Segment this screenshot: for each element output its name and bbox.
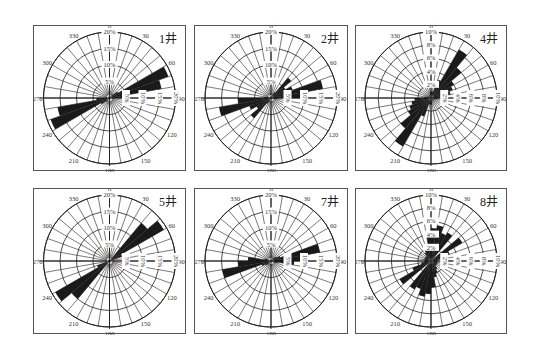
panel-title: 7井 xyxy=(321,192,339,210)
angle-label: 270 xyxy=(195,95,204,102)
radial-tick-label: 20% xyxy=(265,191,278,198)
radial-tick-label: 6% xyxy=(427,54,436,61)
angle-label: 240 xyxy=(42,131,52,138)
angle-label: 60 xyxy=(330,222,337,229)
angle-label: 240 xyxy=(364,294,374,301)
angle-label: 60 xyxy=(490,222,497,229)
angle-label: 300 xyxy=(204,222,214,229)
radial-tick-label: 20% xyxy=(173,255,180,268)
angle-label: 300 xyxy=(42,222,52,229)
radial-tick-label: 10% xyxy=(302,255,309,268)
angle-label: 330 xyxy=(69,195,79,202)
radial-tick-label: 20% xyxy=(335,255,342,268)
angle-label: 270 xyxy=(195,258,204,265)
panel-title: 4井 xyxy=(480,29,498,47)
radial-tick-label: 20% xyxy=(104,191,117,198)
radial-tick-label: 5% xyxy=(124,94,131,103)
angle-label: 30 xyxy=(142,195,149,202)
radial-tick-label: 10% xyxy=(425,191,438,198)
angle-label: 270 xyxy=(34,258,42,265)
angle-label: 150 xyxy=(141,320,151,327)
angle-label: 120 xyxy=(167,294,177,301)
radial-tick-label: 15% xyxy=(265,45,278,52)
angle-label: 30 xyxy=(304,195,311,202)
radial-tick-label: 15% xyxy=(104,208,117,215)
angle-label: 270 xyxy=(356,258,364,265)
rose-diagram: 03060901201501802102402703003305%10%15%2… xyxy=(195,189,349,335)
angle-label: 240 xyxy=(42,294,52,301)
angle-label: 210 xyxy=(230,157,240,164)
radial-tick-label: 10% xyxy=(140,255,147,268)
angle-label: 330 xyxy=(390,32,400,39)
angle-label: 150 xyxy=(141,157,151,164)
angle-label: 210 xyxy=(390,320,400,327)
radial-tick-label: 5% xyxy=(285,94,292,103)
radial-tick-label: 5% xyxy=(267,241,276,248)
angle-label: 180 xyxy=(426,167,436,173)
angle-label: 60 xyxy=(169,59,176,66)
panel-title: 5井 xyxy=(159,192,177,210)
radial-tick-label: 2% xyxy=(442,257,449,266)
radial-tick-label: 5% xyxy=(124,257,131,266)
radial-tick-label: 20% xyxy=(265,28,278,35)
radial-tick-label: 10% xyxy=(495,255,502,268)
angle-label: 330 xyxy=(230,32,240,39)
radial-tick-label: 8% xyxy=(427,41,436,48)
radial-tick-label: 6% xyxy=(468,257,475,266)
radial-tick-label: 8% xyxy=(481,94,488,103)
radial-tick-label: 20% xyxy=(173,92,180,105)
angle-label: 150 xyxy=(462,320,472,327)
radial-tick-label: 15% xyxy=(265,208,278,215)
angle-label: 180 xyxy=(105,167,115,173)
radial-tick-label: 5% xyxy=(105,78,114,85)
rose-panel-4: 03060901201501802102402703003302%4%6%8%1… xyxy=(355,25,507,171)
angle-label: 270 xyxy=(356,95,364,102)
radial-tick-label: 15% xyxy=(104,45,117,52)
radial-tick-label: 8% xyxy=(427,204,436,211)
radial-tick-label: 6% xyxy=(468,94,475,103)
angle-label: 270 xyxy=(34,95,42,102)
angle-label: 120 xyxy=(328,131,338,138)
radial-tick-label: 15% xyxy=(157,92,164,105)
panel-title: 8井 xyxy=(480,192,498,210)
rose-diagram: 03060901201501802102402703003302%4%6%8%1… xyxy=(356,26,508,172)
angle-label: 150 xyxy=(302,157,312,164)
angle-label: 300 xyxy=(204,59,214,66)
radial-tick-label: 10% xyxy=(495,92,502,105)
radial-tick-label: 5% xyxy=(105,241,114,248)
rose-panel-8: 03060901201501802102402703003302%4%6%8%1… xyxy=(355,188,507,334)
angle-label: 210 xyxy=(230,320,240,327)
angle-label: 150 xyxy=(302,320,312,327)
angle-label: 120 xyxy=(167,131,177,138)
angle-label: 210 xyxy=(390,157,400,164)
radial-tick-label: 10% xyxy=(302,92,309,105)
angle-label: 300 xyxy=(364,222,374,229)
panel-title: 1井 xyxy=(159,29,177,47)
angle-label: 150 xyxy=(462,157,472,164)
radial-tick-label: 5% xyxy=(267,78,276,85)
angle-label: 210 xyxy=(69,320,79,327)
rose-panel-7: 03060901201501802102402703003305%10%15%2… xyxy=(194,188,348,334)
angle-label: 60 xyxy=(169,222,176,229)
radial-tick-label: 5% xyxy=(285,257,292,266)
radial-tick-label: 10% xyxy=(140,92,147,105)
radial-tick-label: 10% xyxy=(425,28,438,35)
radial-tick-label: 2% xyxy=(427,81,436,88)
angle-label: 330 xyxy=(230,195,240,202)
angle-label: 30 xyxy=(304,32,311,39)
rose-panel-5: 03060901201501802102402703003305%10%15%2… xyxy=(33,188,186,334)
radial-tick-label: 10% xyxy=(104,224,117,231)
angle-label: 60 xyxy=(490,59,497,66)
angle-label: 180 xyxy=(426,330,436,336)
rose-diagram: 03060901201501802102402703003305%10%15%2… xyxy=(195,26,349,172)
radial-tick-label: 2% xyxy=(427,244,436,251)
angle-label: 300 xyxy=(42,59,52,66)
radial-tick-label: 2% xyxy=(442,94,449,103)
radial-tick-label: 8% xyxy=(481,257,488,266)
angle-label: 120 xyxy=(328,294,338,301)
angle-label: 30 xyxy=(464,32,471,39)
angle-label: 180 xyxy=(266,167,276,173)
angle-label: 30 xyxy=(142,32,149,39)
rose-panel-2: 03060901201501802102402703003305%10%15%2… xyxy=(194,25,348,171)
angle-label: 240 xyxy=(204,131,214,138)
